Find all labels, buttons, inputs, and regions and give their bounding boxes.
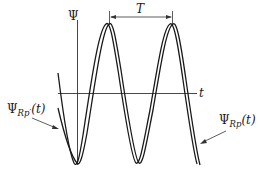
svg-text:ΨRp(t): ΨRp(t): [219, 113, 256, 129]
time-axis-label: t: [199, 86, 204, 100]
curve-psi-rp: [58, 23, 200, 165]
label-psi-rp: ΨRp(t): [200, 113, 256, 144]
psi-axis-label: Ψ: [68, 9, 79, 23]
waveform-diagram: Ψ t T ΨRp′(t) ΨRp(t): [0, 0, 262, 176]
period-label: T: [136, 2, 145, 16]
svg-text:ΨRp′(t): ΨRp′(t): [7, 102, 46, 118]
label-psi-rp-prime: ΨRp′(t): [7, 102, 59, 129]
curve-psi-rp-prime: [58, 23, 197, 164]
